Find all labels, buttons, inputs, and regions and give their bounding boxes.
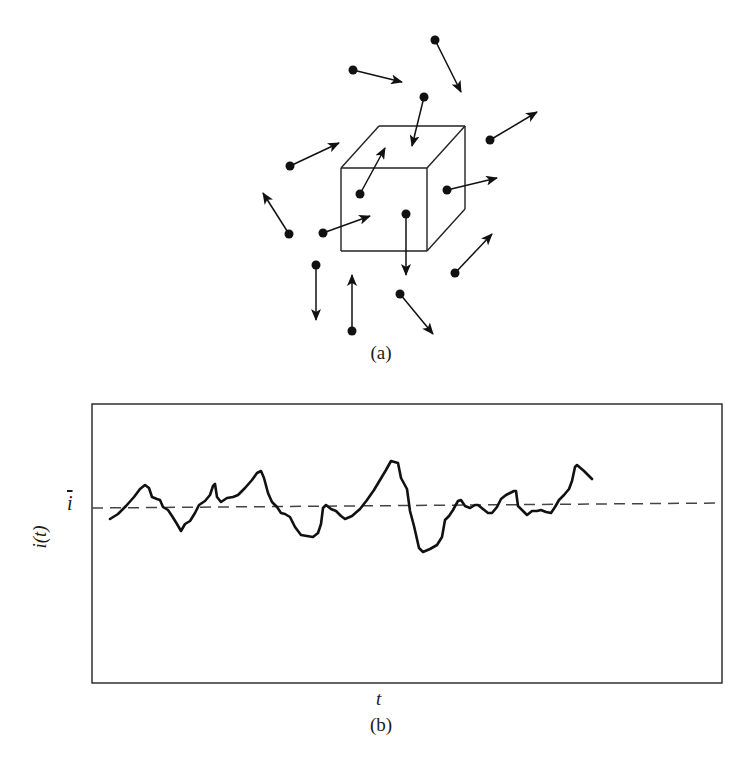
charge-dot-icon <box>285 230 294 239</box>
y-axis-label: i(t) <box>29 525 51 548</box>
particle <box>402 210 411 276</box>
particle <box>348 275 357 336</box>
current-plot <box>92 404 722 683</box>
velocity-arrow-icon <box>455 234 492 273</box>
mean-current-label: i <box>67 492 73 515</box>
velocity-arrow-icon <box>400 294 433 334</box>
panel-b-caption: (b) <box>370 714 392 736</box>
velocity-arrow-icon <box>360 148 385 194</box>
charge-carriers <box>263 36 537 336</box>
particle <box>312 261 321 321</box>
x-axis-label: t <box>376 688 381 710</box>
particle <box>451 234 493 278</box>
particle <box>396 290 434 335</box>
charge-dot-icon <box>402 210 411 219</box>
particle <box>319 216 371 238</box>
velocity-arrow-icon <box>263 193 289 234</box>
charge-dot-icon <box>486 136 495 145</box>
figure-canvas <box>0 0 748 766</box>
charge-dot-icon <box>443 186 452 195</box>
velocity-arrow-icon <box>323 216 370 233</box>
velocity-arrow-icon <box>290 143 339 166</box>
charge-dot-icon <box>319 229 328 238</box>
panel-a-caption: (a) <box>370 342 391 364</box>
charge-dot-icon <box>431 36 440 45</box>
charge-dot-icon <box>312 261 321 270</box>
cube-edge <box>427 209 465 251</box>
mean-current-dashed-line <box>92 503 722 508</box>
particle <box>356 148 386 199</box>
particle <box>486 112 538 145</box>
charge-dot-icon <box>396 290 405 299</box>
cube-edge <box>341 126 379 168</box>
velocity-arrow-icon <box>435 40 461 92</box>
particle <box>412 93 429 147</box>
particle <box>349 66 403 83</box>
charge-dot-icon <box>348 327 357 336</box>
particle <box>443 178 498 195</box>
charge-dot-icon <box>451 269 460 278</box>
cube-edge <box>427 126 465 168</box>
velocity-arrow-icon <box>412 97 424 146</box>
charge-dot-icon <box>286 162 295 171</box>
particle <box>431 36 462 93</box>
velocity-arrow-icon <box>447 178 497 190</box>
particle <box>263 193 294 239</box>
charge-dot-icon <box>356 190 365 199</box>
plot-frame <box>92 404 722 683</box>
velocity-arrow-icon <box>490 112 537 140</box>
particle <box>286 143 340 171</box>
charge-dot-icon <box>349 66 358 75</box>
velocity-arrow-icon <box>353 70 402 82</box>
charge-dot-icon <box>420 93 429 102</box>
